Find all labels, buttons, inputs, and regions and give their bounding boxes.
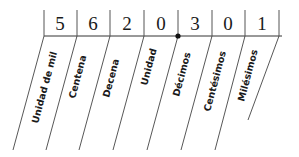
- digit-decimos: 3: [190, 13, 200, 34]
- digit-milesimos: 1: [257, 13, 267, 34]
- digit-unidad-de-mil: 5: [55, 13, 65, 34]
- decimal-point: [175, 33, 180, 38]
- digit-decena: 2: [122, 13, 132, 34]
- label-unidad: Unidad: [138, 47, 158, 86]
- digit-unidad: 0: [156, 13, 166, 34]
- label-decimos: Décimos: [170, 51, 192, 98]
- label-milesimos: Milésimos: [235, 48, 260, 103]
- label-centesimos: Centésimos: [201, 49, 228, 112]
- digit-centesimos: 0: [223, 13, 233, 34]
- label-unidad-de-mil: Unidad de mil: [29, 50, 59, 124]
- label-centena: Centena: [66, 54, 88, 100]
- digit-centena: 6: [88, 13, 98, 34]
- label-decena: Decena: [100, 57, 121, 98]
- place-value-diagram: 5 6 2 0 3 0 1 Unidad de mil Centena Dece…: [0, 0, 299, 157]
